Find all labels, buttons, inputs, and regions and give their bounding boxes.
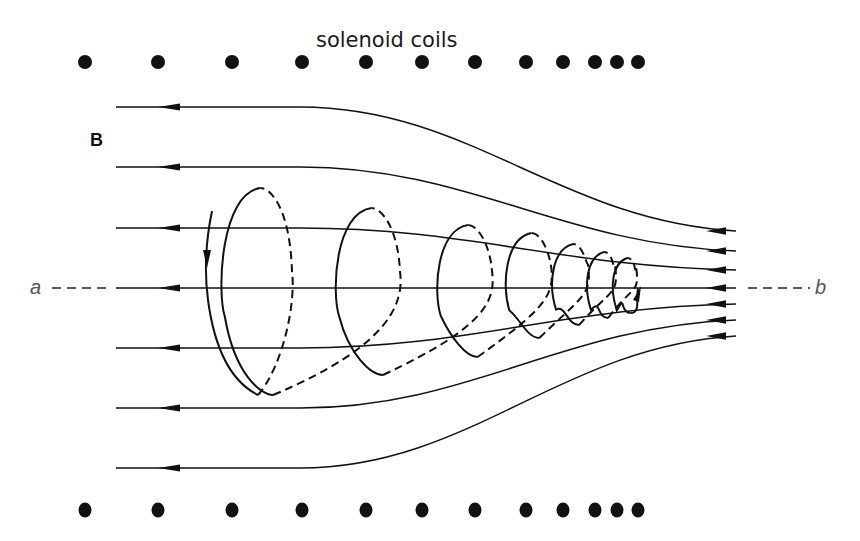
field-line	[116, 320, 736, 408]
coil-dot	[468, 55, 482, 69]
field-line	[116, 167, 736, 251]
field-arrow-icon	[158, 104, 180, 111]
particle-helical-trajectory	[203, 188, 641, 395]
field-arrow-icon	[706, 316, 726, 324]
coil-dot	[519, 55, 533, 69]
coil-dot	[520, 503, 533, 518]
trajectory-dashed	[258, 188, 293, 395]
trajectory-solid	[437, 225, 477, 357]
magnetic-bottle-diagram	[0, 0, 860, 541]
field-arrow-icon	[706, 247, 726, 255]
coil-dot	[360, 503, 373, 518]
trajectory-solid	[587, 252, 608, 318]
coil-dot	[557, 503, 570, 518]
coil-dot	[469, 503, 482, 518]
field-arrow-icon	[158, 345, 180, 352]
field-arrow-icon	[158, 285, 180, 292]
coil-dot	[226, 503, 239, 518]
coil-dot	[78, 55, 92, 69]
coil-dot	[631, 55, 645, 69]
coil-dot	[295, 55, 309, 69]
trajectory-solid	[221, 188, 273, 395]
coil-dot	[415, 55, 429, 69]
coil-dot	[556, 55, 570, 69]
coil-dot	[152, 503, 165, 518]
field-arrow-icon	[706, 266, 726, 274]
coil-dot	[296, 503, 309, 518]
magnetic-field-lines	[116, 104, 736, 472]
solenoid-coils-top-row	[78, 55, 645, 69]
field-line	[116, 336, 736, 468]
field-arrow-icon	[706, 284, 726, 292]
trajectory-solid	[206, 211, 258, 395]
field-arrow-icon	[158, 405, 180, 412]
coil-dot	[611, 503, 624, 518]
field-arrow-icon	[158, 225, 180, 232]
trajectory-arrow-icon	[203, 250, 211, 268]
coil-dot	[225, 55, 239, 69]
field-arrow-icon	[158, 164, 180, 171]
coil-dot	[151, 55, 165, 69]
coil-dot	[588, 55, 602, 69]
coil-dot	[416, 503, 429, 518]
coil-dot	[610, 55, 624, 69]
coil-dot	[589, 503, 602, 518]
field-label-b: B	[90, 130, 103, 151]
axis-label-a: a	[30, 276, 41, 299]
field-arrow-icon	[158, 465, 180, 472]
diagram-title: solenoid coils	[316, 28, 458, 52]
coil-dot	[632, 503, 645, 518]
solenoid-coils-bottom-row	[79, 503, 645, 518]
field-line	[116, 107, 736, 231]
axis-label-b: b	[815, 276, 826, 299]
coil-dot	[79, 503, 92, 518]
field-arrow-icon	[706, 300, 726, 308]
coil-dot	[359, 55, 373, 69]
trajectory-solid	[336, 208, 383, 375]
